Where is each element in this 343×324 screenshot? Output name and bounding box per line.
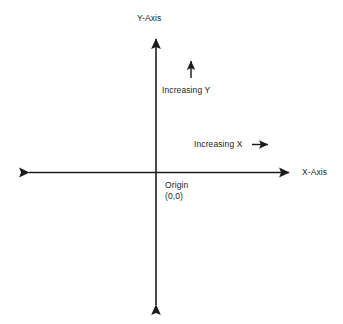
origin-coordinates-label: (0,0) [165, 191, 183, 201]
increasing-y-label: Increasing Y [162, 85, 210, 95]
x-axis-label: X-Axis [302, 167, 327, 177]
increasing-x-label: Increasing X [194, 139, 242, 149]
diagram-canvas: Y-Axis X-Axis Increasing Y Increasing X … [0, 0, 343, 324]
coordinate-axes-graphic [0, 0, 343, 324]
origin-label: Origin [165, 180, 188, 190]
y-axis-label: Y-Axis [137, 13, 161, 23]
